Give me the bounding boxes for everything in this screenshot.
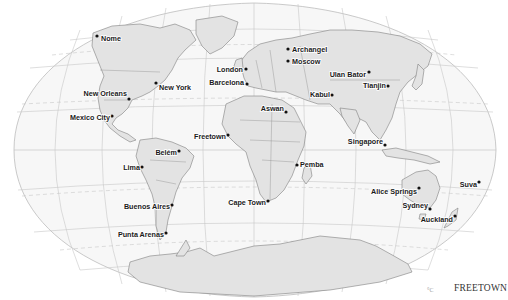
city-label: London <box>217 65 243 74</box>
city-dot-icon <box>245 82 248 85</box>
city-label: Pemba <box>300 160 325 169</box>
city-label: Freetown <box>194 132 226 141</box>
city-label: New Orleans <box>83 89 127 98</box>
city-dot-icon <box>226 133 229 136</box>
city-marker[interactable]: London <box>217 65 248 74</box>
city-label: Tianjin <box>363 81 386 90</box>
city-marker[interactable]: Cape Town <box>228 198 269 207</box>
city-dot-icon <box>95 34 98 37</box>
city-dot-icon <box>266 199 269 202</box>
city-dot-icon <box>284 110 287 113</box>
city-label: Nome <box>101 34 121 43</box>
city-dot-icon <box>110 114 113 117</box>
city-dot-icon <box>177 149 180 152</box>
city-label: Lima <box>123 163 141 172</box>
world-map[interactable]: NomeArchangelMoscowLondonBarcelonaUlan B… <box>0 0 508 300</box>
city-dot-icon <box>170 203 173 206</box>
city-dot-icon <box>286 47 289 50</box>
city-label: Buenos Aires <box>124 202 170 211</box>
city-label: Sydney <box>402 201 428 210</box>
city-label: Singapore <box>348 137 383 146</box>
city-label: Punta Arenas <box>118 230 164 239</box>
city-dot-icon <box>453 214 456 217</box>
city-marker[interactable]: Aswan <box>261 104 288 114</box>
city-marker[interactable]: Moscow <box>286 57 320 66</box>
city-marker[interactable]: Singapore <box>348 137 387 147</box>
city-marker[interactable]: Archangel <box>286 45 327 54</box>
city-dot-icon <box>244 67 247 70</box>
city-label: Aswan <box>261 104 284 113</box>
city-marker[interactable]: Freetown <box>194 132 230 141</box>
corner-label: FREETOWN <box>454 283 507 293</box>
city-marker[interactable]: Mexico City <box>70 113 114 122</box>
city-dot-icon <box>140 165 143 168</box>
city-label: New York <box>159 83 191 92</box>
city-dot-icon <box>164 231 167 234</box>
city-dot-icon <box>386 84 389 87</box>
city-label: Kabul <box>310 90 330 99</box>
city-marker[interactable]: Auckland <box>421 214 457 224</box>
city-marker[interactable]: Punta Arenas <box>118 230 168 239</box>
city-label: Alice Springs <box>371 187 417 196</box>
city-marker[interactable]: New York <box>154 81 191 92</box>
city-dot-icon <box>127 97 130 100</box>
city-dot-icon <box>286 59 289 62</box>
city-label: Cape Town <box>228 198 266 207</box>
city-marker[interactable]: Sydney <box>402 201 431 211</box>
city-dot-icon <box>383 143 386 146</box>
city-marker[interactable]: Buenos Aires <box>124 202 174 211</box>
city-marker[interactable]: Alice Springs <box>371 186 421 196</box>
city-marker[interactable]: Barcelona <box>209 78 248 87</box>
city-label: Auckland <box>421 215 453 224</box>
city-label: Ulan Bator <box>330 70 367 79</box>
city-dot-icon <box>295 163 298 166</box>
city-dot-icon <box>154 81 157 84</box>
city-label: Moscow <box>292 57 321 66</box>
city-marker[interactable]: Pemba <box>295 160 324 169</box>
city-label: Barcelona <box>209 78 245 87</box>
city-marker[interactable]: Tianjin <box>363 81 390 90</box>
city-label: Archangel <box>292 45 327 54</box>
city-marker[interactable]: Ulan Bator <box>330 70 371 79</box>
city-dot-icon <box>477 180 480 183</box>
city-label: Belém <box>155 148 177 157</box>
city-label: Suva <box>460 180 478 189</box>
city-marker[interactable]: Belém <box>155 148 180 157</box>
city-dot-icon <box>367 70 370 73</box>
city-dot-icon <box>330 93 333 96</box>
corner-glyph: °C <box>427 287 433 293</box>
city-label: Mexico City <box>70 113 110 122</box>
city-dot-icon <box>428 207 431 210</box>
city-dot-icon <box>417 186 420 189</box>
